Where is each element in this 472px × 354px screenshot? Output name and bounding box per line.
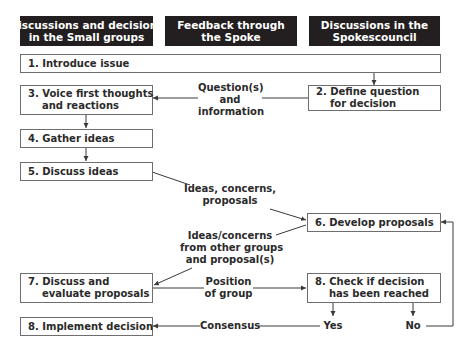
step-5-discuss-ideas: 5. Discuss ideas [20,162,153,181]
step-label: 4. Gather ideas [28,133,114,145]
edge-label-consensus: Consensus [200,320,258,332]
step-8-implement-decision: 8. Implement decision [20,317,153,336]
step-6-develop-proposals: 6. Develop proposals [307,213,441,232]
step-8-check-decision: 8. Check if decision has been reached [307,273,441,303]
step-label: 8. Check if decision has been reached [315,276,429,300]
step-label: 1. Introduce issue [28,58,129,70]
edge-label-questions: Question(s) and information [198,82,262,118]
step-1-introduce-issue: 1. Introduce issue [20,54,441,73]
step-label: 7. Discuss and evaluate proposals [28,276,149,300]
step-2-define-question: 2. Define question for decision [308,85,441,111]
arrow-label-to-6 [270,209,306,220]
step-label: 5. Discuss ideas [28,166,118,178]
arrow-label-to-7 [154,268,192,285]
edge-label-no: No [402,320,424,332]
line-6-to-label [276,225,306,235]
step-4-gather-ideas: 4. Gather ideas [20,129,153,148]
edge-label-other-groups: Ideas/concerns from other groups and pro… [180,230,280,266]
edge-label-position: Position of group [204,276,253,300]
step-label: 8. Implement decision [28,321,153,333]
edge-label-ideas: Ideas, concerns, proposals [180,183,280,207]
step-label: 6. Develop proposals [315,217,434,229]
step-3-voice-first-thoughts: 3. Voice first thoughts and reactions [20,85,153,115]
step-label: 3. Voice first thoughts and reactions [28,88,153,112]
step-7-discuss-evaluate: 7. Discuss and evaluate proposals [20,273,153,303]
edge-label-yes: Yes [320,320,346,332]
step-label: 2. Define question for decision [316,86,419,110]
